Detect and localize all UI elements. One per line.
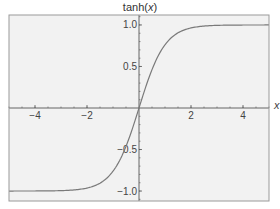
x-axis-label: x (273, 99, 280, 111)
y-tick-label: 1.0 (123, 19, 137, 30)
x-tick-label: 4 (240, 110, 246, 121)
tanh-chart: −4−2241.00.5−0.5−1.0 x (0, 0, 280, 209)
x-tick-label: −2 (81, 110, 93, 121)
y-tick-label: 0.5 (123, 61, 137, 72)
x-tick-label: −4 (29, 110, 41, 121)
y-tick-label: −0.5 (117, 144, 137, 155)
y-tick-label: −1.0 (117, 186, 137, 197)
x-tick-label: 2 (188, 110, 194, 121)
